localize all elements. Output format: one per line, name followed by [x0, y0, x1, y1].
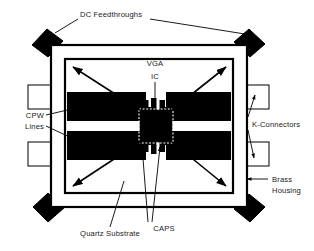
- label-housing: Housing: [272, 186, 301, 195]
- vga-ic-group: [139, 109, 173, 143]
- label-cpw: CPW: [26, 111, 45, 120]
- label-dc-feedthroughs: DC Feedthroughs: [80, 10, 142, 19]
- label-k-connectors: K-Connectors: [252, 120, 300, 129]
- label-caps: CAPS: [153, 224, 174, 233]
- vga-ic-die: [140, 110, 172, 142]
- assembly-diagram-svg: DC Feedthroughs VGA IC CPW Lines K-Conne…: [0, 0, 314, 251]
- label-ic: IC: [151, 72, 159, 81]
- label-vga: VGA: [147, 59, 164, 68]
- label-lines: Lines: [25, 122, 44, 131]
- cpw-left-signal-slot: [67, 121, 146, 131]
- label-brass: Brass: [272, 175, 292, 184]
- figure-diagram: DC Feedthroughs VGA IC CPW Lines K-Conne…: [0, 0, 314, 251]
- cpw-right-signal-slot: [166, 121, 231, 131]
- label-quartz-substrate: Quartz Substrate: [80, 229, 140, 238]
